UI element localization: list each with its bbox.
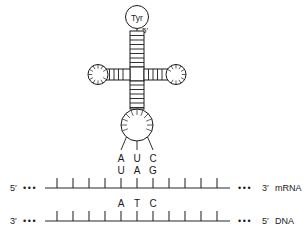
dna-left-end-label: 3′: [10, 216, 17, 226]
mrna-name-label: mRNA: [275, 183, 302, 193]
t-arm: [144, 65, 186, 85]
t-arm-stem: [144, 69, 169, 80]
dna-left-ellipsis: •••: [23, 216, 37, 226]
mrna-strand: U A G 5′ •••: [10, 165, 302, 193]
d-arm: [88, 65, 130, 85]
dna-base-1: T: [134, 198, 140, 209]
mrna-left-end-label: 5′: [10, 183, 17, 193]
mrna-codon-base-1: A: [134, 165, 141, 176]
dna-name-label: DNA: [275, 216, 294, 226]
anticodon-base-2: C: [149, 153, 156, 164]
acceptor-stem: [130, 31, 144, 67]
dna-triplet-labels: A T C: [118, 198, 157, 209]
trna-molecule: Tyr 5′: [88, 6, 186, 165]
dna-strand: A T C 3′ •••: [10, 198, 294, 226]
mrna-ticks: [57, 178, 217, 188]
mrna-codon-base-0: U: [117, 165, 124, 176]
anticodon-stem: [130, 81, 144, 109]
acceptor-stem-rungs: [130, 36, 144, 63]
mrna-codon-labels: U A G: [117, 165, 157, 176]
d-arm-stem: [105, 69, 130, 80]
trna-junction: [130, 67, 144, 81]
dna-right-end-label: 5′: [262, 216, 269, 226]
dna-right-ellipsis: •••: [238, 216, 252, 226]
figure-canvas: Tyr 5′: [0, 0, 308, 232]
dna-base-2: C: [149, 198, 156, 209]
mrna-codon-base-2: G: [149, 165, 157, 176]
anticodon-base-labels: A U C: [118, 153, 157, 164]
anticodon-base-0: A: [118, 153, 125, 164]
anticodon-loop: [121, 109, 153, 150]
amino-acid-label: Tyr: [131, 13, 143, 23]
mrna-left-ellipsis: •••: [23, 183, 37, 193]
anticodon-base-1: U: [133, 153, 140, 164]
mrna-right-ellipsis: •••: [238, 183, 252, 193]
mrna-right-end-label: 3′: [262, 183, 269, 193]
dna-ticks: [57, 211, 217, 221]
dna-base-0: A: [118, 198, 125, 209]
trna-translation-diagram: Tyr 5′: [0, 0, 308, 232]
